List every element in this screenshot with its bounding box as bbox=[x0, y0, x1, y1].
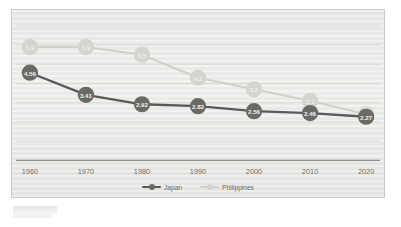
legend-item-philippines[interactable]: Philippines bbox=[200, 183, 254, 191]
legend-swatch-japan bbox=[142, 183, 161, 191]
legend-swatch-philippines bbox=[200, 183, 219, 191]
series-points-group: 5.95.95.54.33.73.12.44.563.412.922.822.5… bbox=[22, 39, 375, 125]
legend-label-japan: Japan bbox=[164, 184, 182, 191]
data-point-philippines-1970[interactable]: 5.9 bbox=[78, 39, 94, 55]
data-label: 2.27 bbox=[360, 114, 373, 121]
chart-container: 5.95.95.54.33.73.12.44.563.412.922.822.5… bbox=[11, 9, 385, 198]
data-label: 3.41 bbox=[80, 92, 93, 99]
data-label: 2.92 bbox=[136, 101, 149, 108]
legend-label-philippines: Philippines bbox=[222, 184, 254, 191]
x-tick-label-2000: 2000 bbox=[246, 167, 262, 176]
chart-legend: Japan Philippines bbox=[12, 183, 384, 191]
data-label: 5.9 bbox=[82, 44, 91, 51]
x-tick-label-1980: 1980 bbox=[134, 167, 150, 176]
data-point-philippines-1980[interactable]: 5.5 bbox=[134, 47, 150, 63]
data-label: 3.1 bbox=[306, 98, 315, 105]
data-point-philippines-1960[interactable]: 5.9 bbox=[22, 39, 38, 55]
data-point-japan-1990[interactable]: 2.82 bbox=[190, 98, 206, 114]
x-tick-label-1990: 1990 bbox=[190, 167, 206, 176]
x-tick-label-1970: 1970 bbox=[78, 167, 94, 176]
data-point-japan-1970[interactable]: 3.41 bbox=[78, 87, 94, 103]
data-point-japan-2020[interactable]: 2.27 bbox=[358, 109, 374, 125]
data-point-japan-2010[interactable]: 2.46 bbox=[302, 105, 318, 121]
data-label: 5.9 bbox=[26, 44, 35, 51]
x-tick-label-1960: 1960 bbox=[22, 167, 38, 176]
x-axis-tick-labels: 1960197019801990200020102020 bbox=[22, 167, 375, 176]
data-label: 2.46 bbox=[304, 110, 317, 117]
data-point-japan-2000[interactable]: 2.56 bbox=[246, 103, 262, 119]
x-tick-label-2020: 2020 bbox=[358, 167, 374, 176]
x-tick-label-2010: 2010 bbox=[302, 167, 318, 176]
data-label: 4.56 bbox=[24, 70, 37, 77]
data-label: 2.56 bbox=[248, 108, 261, 115]
legend-item-japan[interactable]: Japan bbox=[142, 183, 182, 191]
data-label: 3.7 bbox=[250, 86, 259, 93]
data-point-japan-1960[interactable]: 4.56 bbox=[22, 65, 38, 81]
scan-artifact-line bbox=[13, 215, 51, 218]
scan-artifact-strip bbox=[13, 206, 57, 215]
data-label: 4.3 bbox=[194, 75, 203, 82]
data-point-japan-1980[interactable]: 2.92 bbox=[134, 96, 150, 112]
data-label: 5.5 bbox=[138, 52, 147, 59]
data-point-philippines-2000[interactable]: 3.7 bbox=[246, 81, 262, 97]
data-label: 2.82 bbox=[192, 103, 205, 110]
line-chart-plot: 5.95.95.54.33.73.12.44.563.412.922.822.5… bbox=[12, 10, 384, 197]
data-point-philippines-1990[interactable]: 4.3 bbox=[190, 70, 206, 86]
